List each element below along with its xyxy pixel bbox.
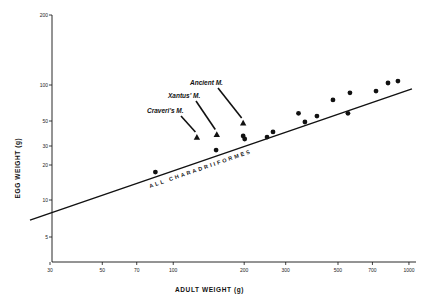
data-point-circle [396, 79, 401, 84]
x-axis-title: ADULT WEIGHT (g) [175, 286, 244, 294]
y-tick-label: 10 [42, 197, 48, 203]
x-tick-label: 200 [240, 267, 249, 273]
data-point-circle [346, 111, 351, 116]
x-tick-label: 70 [134, 267, 140, 273]
data-point-circle [265, 135, 270, 140]
x-axis: 3050701002003005007001000 [47, 262, 416, 273]
annotations: Craveri's M.Xantus' M.Ancient M. [147, 79, 242, 132]
data-point-circle [374, 89, 379, 94]
x-tick-label: 50 [100, 267, 106, 273]
scatter-chart: 510203050100200 305070100200300500700100… [0, 0, 424, 302]
data-point-circle [303, 120, 308, 125]
x-tick-label: 100 [169, 267, 178, 273]
data-point-circle [153, 170, 158, 175]
annotation-label: Xantus' M. [167, 92, 200, 99]
y-axis: 510203050100200 [40, 12, 52, 262]
x-tick-label: 700 [368, 267, 377, 273]
y-axis-title: EGG WEIGHT (g) [14, 138, 22, 199]
regression-line: ALL CHARADRIIFORMES [30, 89, 412, 220]
data-point-circle [331, 98, 336, 103]
annotation-label: Craveri's M. [147, 107, 184, 114]
y-tick-label: 100 [40, 82, 49, 88]
data-point-circle [296, 111, 301, 116]
data-point-triangle [194, 134, 200, 140]
annotation-arrow [218, 88, 242, 118]
y-tick-label: 50 [42, 118, 48, 124]
annotation-label: Ancient M. [189, 79, 223, 86]
data-point-triangle [214, 131, 220, 137]
x-tick-label: 30 [47, 267, 53, 273]
data-point-circle [348, 90, 353, 95]
x-tick-label: 300 [282, 267, 291, 273]
data-point-circle [214, 148, 219, 153]
data-point-circle [242, 137, 247, 142]
data-point-circle [271, 130, 276, 135]
data-point-circle [386, 81, 391, 86]
data-point-triangle [240, 120, 246, 126]
y-tick-label: 30 [42, 143, 48, 149]
annotation-arrow [196, 101, 215, 129]
fit-line [30, 89, 412, 220]
x-tick-label: 500 [334, 267, 343, 273]
y-tick-label: 5 [45, 234, 48, 240]
y-tick-label: 20 [42, 162, 48, 168]
annotation-arrow [181, 116, 195, 132]
x-tick-label: 1000 [403, 267, 414, 273]
y-tick-label: 200 [40, 12, 49, 18]
fit-line-label: ALL CHARADRIIFORMES [148, 148, 252, 189]
data-point-circle [315, 114, 320, 119]
